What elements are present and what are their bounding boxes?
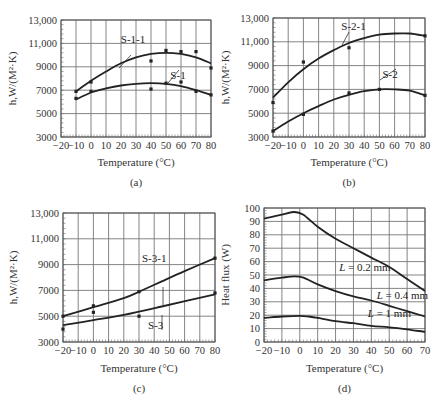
data-point bbox=[92, 311, 95, 314]
series-s-1-1 bbox=[74, 49, 212, 93]
y-tick-label: 5000 bbox=[36, 108, 57, 119]
y-tick-label: 10 bbox=[250, 323, 261, 334]
y-tick-label: 11,000 bbox=[241, 36, 270, 47]
chart-caption: (c) bbox=[133, 382, 146, 395]
x-tick-label: 70 bbox=[191, 140, 202, 151]
x-tick-label: 0 bbox=[91, 345, 96, 356]
data-point bbox=[213, 291, 216, 294]
series-annotation: S-1-1 bbox=[121, 33, 145, 45]
data-point bbox=[213, 257, 216, 260]
chart-caption: (b) bbox=[343, 176, 356, 189]
y-tick-label: 3000 bbox=[38, 337, 59, 348]
data-point bbox=[209, 93, 212, 96]
chart-caption: (d) bbox=[338, 382, 351, 395]
x-tick-label: 0 bbox=[301, 140, 306, 151]
x-tick-label: 10 bbox=[313, 140, 324, 151]
data-point bbox=[194, 90, 197, 93]
x-tick-label: 30 bbox=[131, 140, 142, 151]
curve-line bbox=[264, 212, 425, 291]
data-point bbox=[137, 315, 140, 318]
y-tick-label: 50 bbox=[250, 270, 261, 281]
data-point bbox=[179, 50, 182, 53]
y-tick-label: 60 bbox=[250, 256, 261, 267]
data-point bbox=[61, 328, 64, 331]
data-point bbox=[423, 34, 426, 37]
series-annotation: L = 0.4 mm bbox=[376, 289, 429, 301]
x-tick-label: 50 bbox=[374, 140, 385, 151]
y-axis-label: h,W/(M²·K) bbox=[7, 250, 20, 304]
y-tick-label: 3000 bbox=[36, 132, 57, 143]
data-point bbox=[347, 91, 350, 94]
y-tick-label: 0 bbox=[255, 337, 260, 348]
data-point bbox=[149, 87, 152, 90]
chart-b: −20−100102030405060708030005000700090001… bbox=[219, 13, 430, 190]
x-tick-label: 30 bbox=[344, 140, 355, 151]
y-tick-label: 5000 bbox=[248, 108, 269, 119]
data-point bbox=[302, 113, 305, 116]
y-tick-label: 9000 bbox=[38, 259, 59, 270]
x-tick-label: 40 bbox=[359, 140, 370, 151]
data-point bbox=[149, 59, 152, 62]
x-tick-label: 70 bbox=[405, 140, 416, 151]
x-tick-label: 0 bbox=[88, 140, 93, 151]
y-tick-label: 9000 bbox=[36, 61, 57, 72]
x-tick-label: 50 bbox=[384, 345, 395, 356]
y-tick-label: 5000 bbox=[38, 311, 59, 322]
y-tick-label: 30 bbox=[250, 296, 261, 307]
series-annotation: S-2-1 bbox=[341, 20, 365, 32]
x-tick-label: 10 bbox=[101, 140, 112, 151]
chart-caption: (a) bbox=[130, 176, 143, 189]
x-tick-label: 0 bbox=[297, 345, 302, 356]
y-axis-label: Heat flux (W) bbox=[219, 244, 232, 306]
data-point bbox=[61, 315, 64, 318]
x-axis-label: Temperature (°C) bbox=[310, 156, 388, 169]
data-point bbox=[271, 129, 274, 132]
data-point bbox=[89, 90, 92, 93]
data-point bbox=[271, 101, 274, 104]
x-tick-label: −10 bbox=[68, 140, 84, 151]
data-point bbox=[302, 60, 305, 63]
x-tick-label: 80 bbox=[206, 140, 217, 151]
y-tick-label: 13,000 bbox=[30, 208, 59, 219]
data-point bbox=[194, 50, 197, 53]
x-tick-label: 40 bbox=[366, 345, 377, 356]
series-annotation: S-1 bbox=[170, 69, 185, 81]
data-point bbox=[179, 80, 182, 83]
y-tick-label: 11,000 bbox=[31, 233, 60, 244]
x-tick-label: 60 bbox=[389, 140, 400, 151]
x-tick-label: −10 bbox=[274, 345, 290, 356]
x-tick-label: −10 bbox=[280, 140, 296, 151]
x-axis-label: Temperature (°C) bbox=[97, 156, 175, 169]
y-tick-label: 3000 bbox=[248, 132, 269, 143]
data-point bbox=[74, 97, 77, 100]
data-point bbox=[137, 290, 140, 293]
x-axis-label: Temperature (°C) bbox=[100, 362, 178, 375]
y-tick-label: 100 bbox=[244, 203, 260, 214]
data-point bbox=[74, 90, 77, 93]
y-axis-label: h,W/(M²·K) bbox=[219, 50, 232, 104]
y-tick-label: 40 bbox=[250, 283, 261, 294]
x-tick-label: 70 bbox=[195, 345, 206, 356]
curve-line bbox=[76, 83, 211, 99]
y-axis-label: h,W/(M²·K) bbox=[6, 51, 19, 105]
y-tick-label: 13,000 bbox=[240, 13, 269, 24]
x-tick-label: 60 bbox=[179, 345, 190, 356]
data-point bbox=[423, 94, 426, 97]
x-tick-label: 20 bbox=[119, 345, 130, 356]
data-point bbox=[209, 66, 212, 69]
x-tick-label: 50 bbox=[164, 345, 175, 356]
gridlines bbox=[63, 213, 215, 342]
figure-canvas: −20−100102030405060708030005000700090001… bbox=[0, 0, 440, 400]
chart-a: −20−100102030405060708030005000700090001… bbox=[6, 15, 216, 190]
x-tick-label: 20 bbox=[329, 140, 340, 151]
y-tick-label: 70 bbox=[250, 243, 261, 254]
data-point bbox=[164, 49, 167, 52]
y-tick-label: 7000 bbox=[248, 84, 269, 95]
x-tick-label: 50 bbox=[161, 140, 172, 151]
chart-c: −20−100102030405060708030005000700090001… bbox=[7, 208, 220, 396]
series-annotation: S-3-1 bbox=[142, 252, 166, 264]
data-point bbox=[164, 82, 167, 85]
series-annotation: S-3 bbox=[148, 319, 164, 331]
x-tick-label: 30 bbox=[134, 345, 145, 356]
x-tick-label: 10 bbox=[103, 345, 114, 356]
